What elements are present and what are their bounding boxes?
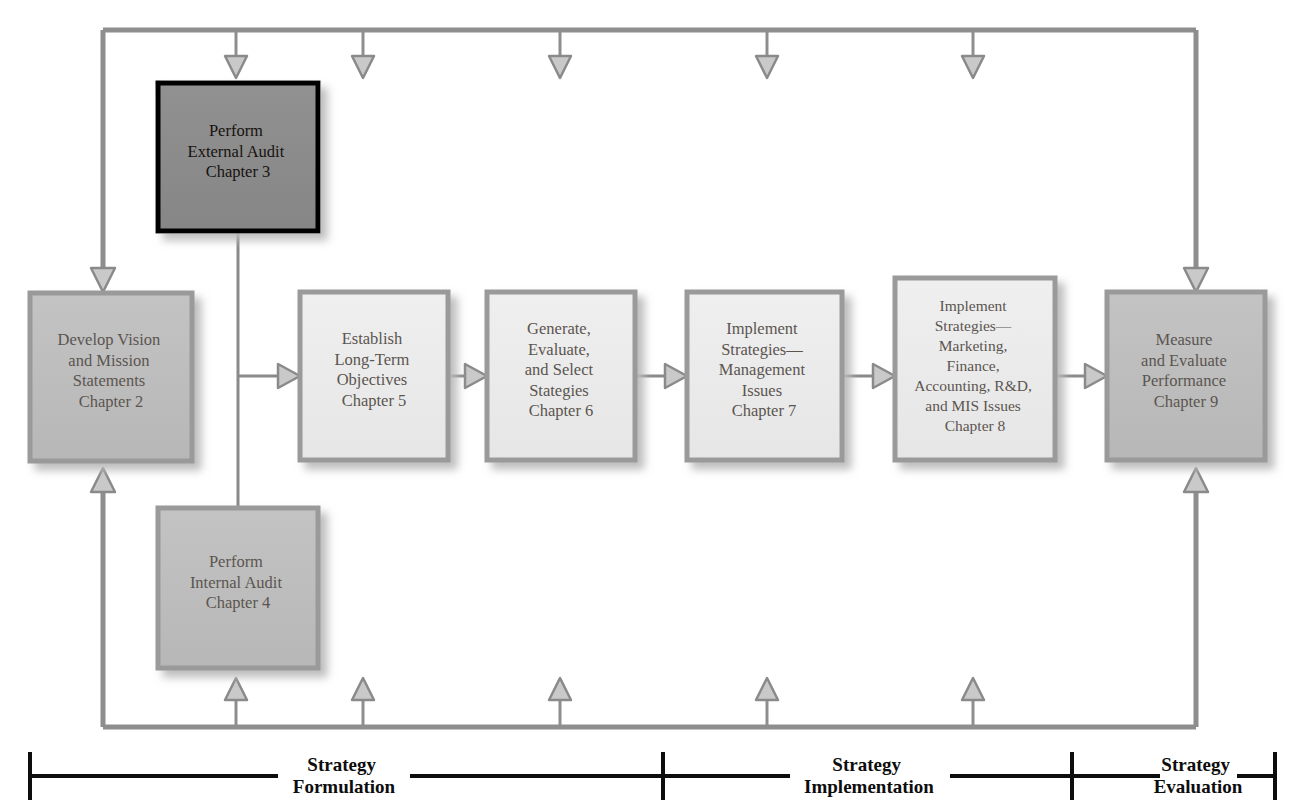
phase-label-strategy-formulation: Strategy Formulation	[293, 754, 396, 797]
feedback-arrow-down-3	[549, 30, 571, 78]
flow-arrow-objectives-to-strategies	[448, 364, 487, 388]
phase-label-line: Strategy	[307, 754, 376, 775]
phase-label-strategy-implementation: Strategy Implementation	[804, 754, 934, 797]
feedback-arrow-up-4	[756, 678, 778, 727]
feedback-arrow-up-1	[225, 678, 247, 727]
flow-arrow-strategies-to-management	[635, 364, 687, 388]
feedback-arrow-down-4	[756, 30, 778, 78]
phase-label-line: Strategy	[1161, 754, 1230, 775]
svg-text:Implement Strategies—: Implement Strategies— Management Issues …	[719, 319, 809, 420]
feedback-arrow-down-1	[225, 30, 247, 78]
box-line: Implement	[939, 297, 1007, 314]
box-line: and Evaluate	[1141, 351, 1227, 370]
box-develop-vision-and-mission-statements[interactable]: Develop Vision and Mission Statements Ch…	[30, 293, 192, 461]
box-line: Chapter 5	[342, 391, 407, 410]
box-implement-strategies-functional-issues[interactable]: Implement Strategies— Marketing, Finance…	[895, 278, 1055, 460]
box-line: Chapter 4	[206, 593, 271, 612]
svg-text:Generate, Evaluate,: Generate, Evaluate, and Select Stategies…	[525, 319, 597, 420]
box-line: Perform	[209, 552, 263, 571]
phase-label-strategy-evaluation: Strategy Evaluation	[1154, 754, 1243, 797]
feedback-arrow-down-right	[1184, 268, 1208, 292]
box-line: Marketing,	[939, 337, 1007, 354]
box-line: Issues	[742, 381, 782, 400]
feedback-arrow-up-5	[962, 678, 984, 727]
feedback-arrow-up-right	[1184, 468, 1208, 492]
phase-scale-bar: Strategy Formulation Strategy Implementa…	[30, 752, 1275, 800]
box-implement-strategies-management-issues[interactable]: Implement Strategies— Management Issues …	[687, 292, 842, 460]
feedback-arrow-down-2	[352, 30, 374, 78]
feedback-arrow-up-left	[91, 468, 115, 492]
box-line: and MIS Issues	[925, 397, 1021, 414]
strategic-management-model-diagram: Perform External Audit Chapter 3 Develop…	[0, 0, 1302, 808]
box-line: Evaluate,	[528, 340, 590, 359]
feedback-arrow-up-2	[352, 678, 374, 727]
box-line: Strategies—	[935, 317, 1012, 334]
phase-label-line: Evaluation	[1154, 776, 1243, 797]
box-line: Generate,	[527, 319, 591, 338]
box-perform-external-audit[interactable]: Perform External Audit Chapter 3	[158, 83, 318, 231]
feedback-arrow-up-3	[549, 678, 571, 727]
box-line: Establish	[342, 329, 403, 348]
box-line: and Mission	[68, 351, 149, 370]
box-line: Performance	[1142, 371, 1226, 390]
box-line: Chapter 8	[945, 417, 1006, 434]
box-line: Statements	[73, 371, 145, 390]
box-perform-internal-audit[interactable]: Perform Internal Audit Chapter 4	[158, 508, 318, 668]
figure-canvas: Perform External Audit Chapter 3 Develop…	[0, 0, 1302, 808]
box-establish-long-term-objectives[interactable]: Establish Long-Term Objectives Chapter 5	[300, 292, 448, 460]
box-line: Accounting, R&D,	[914, 377, 1032, 394]
audit-spine-connector	[238, 231, 300, 508]
box-line: Long-Term	[334, 350, 409, 369]
box-line: Stategies	[529, 381, 589, 400]
box-line: Internal Audit	[190, 573, 283, 592]
svg-text:Establish Long-Term: Establish Long-Term Objectives Chapter 5	[334, 329, 413, 410]
feedback-arrow-down-left	[91, 268, 115, 292]
box-line: Measure	[1156, 330, 1213, 349]
box-line: Implement	[726, 319, 798, 338]
box-line: External Audit	[188, 142, 285, 161]
box-line: Management	[719, 360, 806, 379]
box-generate-evaluate-and-select-strategies[interactable]: Generate, Evaluate, and Select Stategies…	[487, 292, 635, 460]
flow-arrow-functional-to-measure	[1055, 364, 1107, 388]
box-line: Perform	[209, 121, 263, 140]
feedback-arrow-down-5	[962, 30, 984, 78]
phase-label-line: Strategy	[832, 754, 901, 775]
phase-label-line: Implementation	[804, 776, 934, 797]
box-line: Chapter 9	[1154, 392, 1219, 411]
box-line: Objectives	[337, 370, 408, 389]
box-line: Finance,	[947, 357, 1000, 374]
box-line: Chapter 6	[529, 401, 594, 420]
phase-label-line: Formulation	[293, 776, 396, 797]
flow-arrow-management-to-functional	[842, 364, 895, 388]
box-line: Chapter 2	[79, 392, 144, 411]
box-line: Strategies—	[721, 340, 803, 359]
box-line: Develop Vision	[58, 330, 161, 349]
box-measure-and-evaluate-performance[interactable]: Measure and Evaluate Performance Chapter…	[1107, 292, 1265, 460]
box-line: Chapter 7	[732, 401, 797, 420]
box-line: and Select	[525, 360, 594, 379]
box-line: Chapter 3	[206, 162, 271, 181]
